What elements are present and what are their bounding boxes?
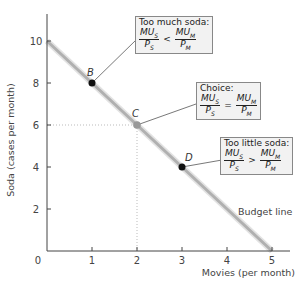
budget-line-label: Budget line [238, 206, 292, 217]
annotation-too-much-soda: Too much soda: MUSPS<MUMPM [135, 16, 213, 54]
x-tick-4: 4 [224, 255, 230, 266]
y-tick-6: 6 [33, 120, 39, 131]
point-b [89, 80, 96, 87]
point-d-label: D [185, 152, 193, 163]
annotation-too-little-soda: Too little soda: MUSPS>MUMPM [220, 137, 293, 175]
y-tick-4: 4 [33, 162, 39, 173]
y-tick-10: 10 [30, 36, 43, 47]
x-tick-1: 1 [89, 255, 95, 266]
point-c [133, 121, 141, 129]
y-axis-label: Soda (cases per month) [5, 83, 16, 197]
y-tick-2: 2 [33, 204, 39, 215]
point-c-label: C [132, 108, 139, 119]
x-tick-2: 2 [134, 255, 140, 266]
origin-label: 0 [35, 255, 41, 266]
annotation-choice: Choice: MUSPS=MUMPM [196, 82, 261, 120]
x-tick-3: 3 [179, 255, 185, 266]
y-tick-8: 8 [33, 78, 39, 89]
x-tick-5: 5 [269, 255, 275, 266]
point-d [179, 164, 186, 171]
point-b-label: B [87, 67, 94, 78]
x-axis-label: Movies (per month) [202, 267, 295, 278]
